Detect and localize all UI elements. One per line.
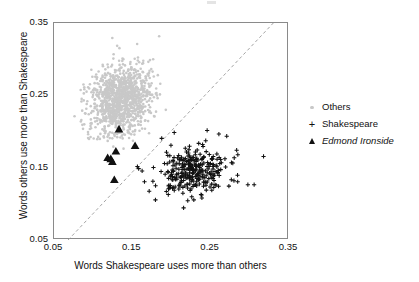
x-tick-label-3: 0.35 bbox=[279, 242, 298, 252]
x-tick-label-1: 0.15 bbox=[122, 242, 141, 252]
y-axis-label: Words others use more than Shakespeare bbox=[18, 11, 29, 241]
legend: Others + Shakespeare Edmond Ironside bbox=[305, 98, 417, 149]
top-artifact bbox=[207, 1, 216, 4]
plot-area bbox=[53, 22, 288, 239]
scatter-plot-figure: 0.05 0.15 0.25 0.35 0.05 0.15 0.25 0.35 … bbox=[0, 0, 419, 282]
legend-label-others: Others bbox=[322, 101, 351, 113]
legend-label-edmond-ironside: Edmond Ironside bbox=[322, 135, 394, 147]
plus-marker-icon: + bbox=[305, 117, 319, 131]
legend-item-shakespeare: + Shakespeare bbox=[305, 115, 417, 132]
scatter-canvas bbox=[54, 23, 289, 240]
triangle-marker-icon bbox=[305, 134, 319, 148]
legend-label-shakespeare: Shakespeare bbox=[322, 118, 378, 130]
dot-marker-icon bbox=[305, 100, 319, 114]
legend-item-edmond-ironside: Edmond Ironside bbox=[305, 132, 417, 149]
x-tick-label-2: 0.25 bbox=[200, 242, 219, 252]
x-axis-label: Words Shakespeare uses more than others bbox=[53, 260, 288, 271]
legend-item-others: Others bbox=[305, 98, 417, 115]
